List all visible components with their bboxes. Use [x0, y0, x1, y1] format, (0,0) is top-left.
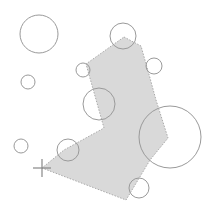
- crosshair-icon[interactable]: [33, 159, 51, 177]
- circle-marker-3[interactable]: [14, 139, 28, 153]
- diagram-canvas: [0, 0, 211, 215]
- circle-marker-6[interactable]: [146, 58, 162, 74]
- circle-marker-2[interactable]: [21, 75, 35, 89]
- circle-marker-1[interactable]: [20, 15, 58, 53]
